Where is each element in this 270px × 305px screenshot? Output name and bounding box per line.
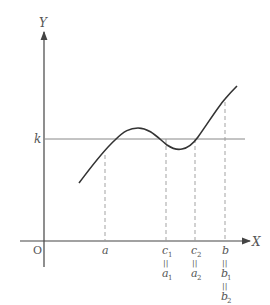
svg-text:2: 2 <box>197 274 201 282</box>
svg-text:b: b <box>222 244 229 257</box>
tick-label-c1: c 1 || a 1 <box>162 244 172 282</box>
tick-label-b: b || b 1 || b 2 <box>221 244 231 305</box>
origin-label: O <box>33 244 42 257</box>
tick-label-a: a <box>102 244 109 257</box>
svg-text:1: 1 <box>168 274 172 282</box>
svg-text:1: 1 <box>227 274 231 282</box>
y-axis-label: Y <box>39 16 48 30</box>
svg-text:2: 2 <box>227 297 231 305</box>
svg-text:1: 1 <box>168 251 172 259</box>
svg-text:2: 2 <box>197 251 201 259</box>
function-curve <box>79 86 237 183</box>
k-label: k <box>34 132 41 146</box>
x-axis-label: X <box>251 235 261 249</box>
tick-label-c2: c 2 || a 2 <box>191 244 201 282</box>
function-diagram: Y X O k a c 1 || a 1 c 2 || a 2 b || b 1… <box>0 0 270 305</box>
